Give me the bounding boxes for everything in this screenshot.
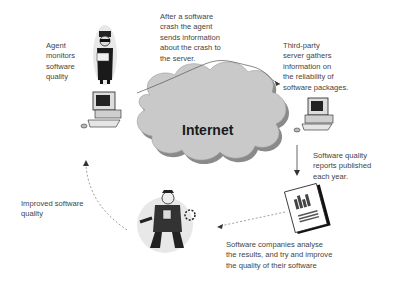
mechanic-figure-icon [137, 190, 195, 253]
agent-label: Agent monitors software quality [46, 41, 75, 83]
server-computer-icon [294, 98, 333, 132]
cloud-label: Internet [182, 122, 233, 138]
improvement-arrow [86, 165, 127, 230]
feedback-arrow [220, 212, 285, 226]
agent-figure-icon [93, 25, 117, 85]
client-computer-icon [81, 92, 121, 128]
report-document-icon [284, 183, 330, 235]
companies-label: Software companies analyse the results, … [226, 240, 332, 271]
improved-label: Improved software quality [21, 199, 83, 220]
internet-cloud-icon [137, 62, 289, 164]
server-label: Third-party server gathers information o… [283, 41, 348, 93]
crash-label: After a software crash the agent sends i… [160, 12, 221, 64]
reports-label: Software quality reports published each … [313, 151, 371, 182]
